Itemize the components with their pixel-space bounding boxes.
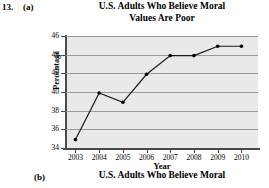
data-point-marker (240, 44, 244, 48)
data-series (0, 0, 269, 165)
data-point-marker (145, 72, 149, 76)
data-point-marker (74, 138, 78, 142)
data-point-marker (216, 44, 220, 48)
line-chart: 46444240383634 2003200420052006200720082… (0, 0, 269, 165)
figure-page: 13. (a) U.S. Adults Who Believe Moral Va… (0, 0, 269, 188)
data-point-marker (192, 54, 196, 58)
data-point-marker (169, 54, 173, 58)
part-label-b: (b) (34, 172, 45, 182)
data-point-marker (121, 100, 125, 104)
y-axis-title: Percentage (52, 43, 61, 99)
data-point-marker (97, 91, 101, 95)
next-chart-title: U.S. Adults Who Believe Moral (62, 170, 262, 182)
